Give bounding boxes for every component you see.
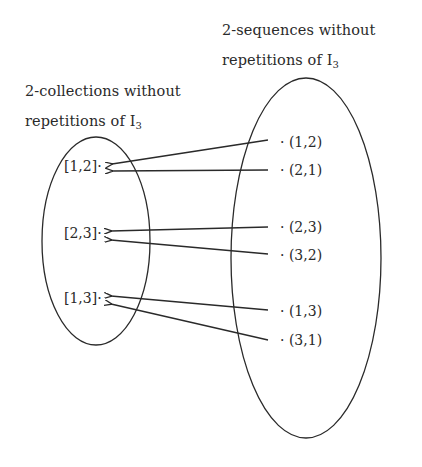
arrow-23-to-23 xyxy=(111,227,268,231)
sequence-element: · (1,3) xyxy=(280,303,322,319)
sequence-element: · (2,1) xyxy=(280,162,322,178)
sequence-element: · (3,2) xyxy=(280,247,322,263)
sequence-element: · (2,3) xyxy=(280,219,322,235)
collection-element: [2,3]· xyxy=(64,225,102,241)
collection-element: [1,2]· xyxy=(64,158,102,174)
arrow-31-to-13 xyxy=(111,304,268,340)
arrow-32-to-23 xyxy=(111,240,268,254)
mapping-arrows xyxy=(111,140,268,340)
arrow-12-to-12 xyxy=(112,140,268,164)
sequence-element: · (3,1) xyxy=(280,332,322,348)
arrow-13-to-13 xyxy=(111,296,268,310)
collection-element: [1,3]· xyxy=(64,290,102,306)
sequence-element: · (1,2) xyxy=(280,134,322,150)
